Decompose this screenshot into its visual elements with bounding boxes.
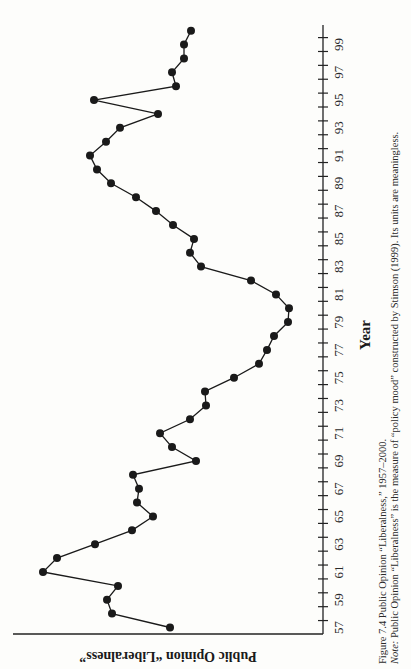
year-tick-label: 99 xyxy=(331,38,346,51)
year-tick-label: 81 xyxy=(331,288,346,301)
data-point-marker xyxy=(154,110,162,118)
liberalness-line-chart: 5759616365676971737577798183858789919395… xyxy=(0,0,411,669)
data-point-marker xyxy=(172,82,180,90)
series-line xyxy=(43,31,289,628)
year-tick-label: 79 xyxy=(331,316,346,329)
data-point-marker xyxy=(149,513,157,521)
year-tick-label: 95 xyxy=(331,94,346,107)
year-tick-label: 93 xyxy=(331,121,346,134)
data-point-marker xyxy=(247,277,255,285)
data-point-marker xyxy=(116,124,124,132)
data-point-marker xyxy=(230,374,238,382)
data-point-marker xyxy=(202,401,210,409)
data-point-marker xyxy=(270,332,278,340)
data-point-marker xyxy=(272,290,280,298)
data-point-marker xyxy=(108,610,116,618)
data-point-marker xyxy=(53,554,61,562)
data-point-marker xyxy=(133,499,141,507)
year-tick-label: 83 xyxy=(331,260,346,273)
year-tick-label: 63 xyxy=(331,538,346,551)
year-tick-label: 75 xyxy=(331,371,346,384)
data-point-marker xyxy=(93,166,101,174)
data-point-marker xyxy=(180,41,188,49)
year-tick-label: 57 xyxy=(331,621,346,635)
year-tick-label: 85 xyxy=(331,232,346,245)
year-tick-label: 71 xyxy=(331,427,346,440)
data-point-marker xyxy=(156,429,164,437)
year-tick-label: 65 xyxy=(331,510,346,523)
data-point-marker xyxy=(107,179,115,187)
data-point-marker xyxy=(285,304,293,312)
data-point-marker xyxy=(190,235,198,243)
data-point-marker xyxy=(90,96,98,104)
year-tick-label: 69 xyxy=(331,454,346,467)
data-point-marker xyxy=(187,27,195,35)
year-axis-tick-labels: 5759616365676971737577798183858789919395… xyxy=(331,38,346,634)
year-tick-label: 73 xyxy=(331,399,346,412)
data-point-marker xyxy=(135,485,143,493)
year-tick-label: 97 xyxy=(331,65,346,79)
data-point-marker xyxy=(168,68,176,76)
data-point-marker xyxy=(192,457,200,465)
year-tick-label: 89 xyxy=(331,177,346,190)
data-point-marker xyxy=(180,54,188,62)
data-point-marker xyxy=(114,582,122,590)
data-point-marker xyxy=(132,193,140,201)
note-label: Note: xyxy=(389,641,400,665)
y-axis-title: Public Opinion “Liberalness” xyxy=(79,649,256,664)
data-point-marker xyxy=(169,221,177,229)
note-text: Public Opinion “Liberalness” is the meas… xyxy=(389,132,401,641)
data-point-marker xyxy=(255,360,263,368)
data-point-marker xyxy=(128,526,136,534)
data-point-marker xyxy=(197,263,205,271)
year-tick-label: 61 xyxy=(331,565,346,578)
x-axis-title: Year xyxy=(357,320,373,350)
data-point-marker xyxy=(102,138,110,146)
data-point-marker xyxy=(39,568,47,576)
data-point-marker xyxy=(263,346,271,354)
year-tick-label: 77 xyxy=(331,343,346,357)
year-tick-label: 67 xyxy=(331,482,346,496)
data-point-marker xyxy=(168,443,176,451)
year-tick-label: 91 xyxy=(331,149,346,162)
data-point-marker xyxy=(201,388,209,396)
figure-caption: Figure 7.4 Public Opinion “Liberalness,”… xyxy=(377,439,388,664)
data-point-marker xyxy=(152,207,160,215)
figure-note: Note: Public Opinion “Liberalness” is th… xyxy=(389,132,401,665)
data-point-marker xyxy=(86,152,94,160)
data-point-marker xyxy=(284,318,292,326)
year-tick-label: 87 xyxy=(331,204,346,218)
data-point-marker xyxy=(166,624,174,632)
data-point-marker xyxy=(103,596,111,604)
series-markers xyxy=(39,27,293,632)
data-point-marker xyxy=(129,471,137,479)
data-point-marker xyxy=(91,540,99,548)
year-tick-label: 59 xyxy=(331,593,346,606)
data-point-marker xyxy=(186,249,194,257)
data-point-marker xyxy=(186,415,194,423)
